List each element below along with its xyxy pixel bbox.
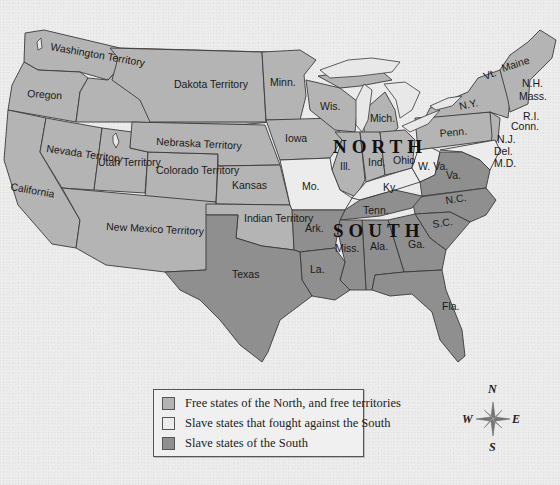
label-wisconsin: Wis. <box>320 100 340 112</box>
legend-label: Slave states that fought against the Sou… <box>185 416 391 431</box>
label-utah: Utah Territory <box>98 156 162 168</box>
compass-west: W <box>462 412 473 427</box>
label-tennessee: Tenn. <box>363 204 389 216</box>
legend-swatch-free <box>162 397 175 410</box>
legend-item-border: Slave states that fought against the Sou… <box>162 416 391 430</box>
label-iowa: Iowa <box>285 132 307 144</box>
label-michigan: Mich. <box>370 112 395 124</box>
label-illinois: Ill. <box>340 160 351 172</box>
label-maryland: M.D. <box>494 157 516 169</box>
label-louisiana: La. <box>310 263 325 275</box>
compass-north: N <box>488 382 497 397</box>
region-florida <box>372 270 465 362</box>
label-new-hampshire: N.H. <box>522 77 543 89</box>
legend-item-south: Slave states of the South <box>162 436 308 450</box>
map-legend: Free states of the North, and free terri… <box>153 389 364 457</box>
label-new-jersey: N.J. <box>497 133 516 145</box>
label-texas: Texas <box>232 268 259 280</box>
label-arkansas: Ark. <box>305 222 324 234</box>
label-kansas: Kansas <box>232 179 267 191</box>
label-dakota: Dakota Territory <box>174 78 249 90</box>
label-missouri: Mo. <box>302 180 320 192</box>
label-indian-territory: Indian Territory <box>244 212 314 224</box>
label-delaware: Del. <box>494 145 513 157</box>
label-kentucky: Ky. <box>383 181 397 193</box>
compass-east: E <box>512 412 520 427</box>
legend-swatch-south <box>162 437 175 450</box>
label-alabama: Ala. <box>370 240 388 252</box>
legend-item-free: Free states of the North, and free terri… <box>162 396 401 410</box>
legend-label: Free states of the North, and free terri… <box>185 396 401 411</box>
label-west-virginia: W. Va. <box>418 160 448 172</box>
label-connecticut: Conn. <box>511 120 539 132</box>
label-oregon: Oregon <box>27 87 63 101</box>
compass-rose: N W E S <box>462 382 522 454</box>
label-georgia: Ga. <box>408 238 425 250</box>
label-massachusetts: Mass. <box>519 90 547 102</box>
legend-label: Slave states of the South <box>185 436 308 451</box>
label-ohio: Ohio <box>393 154 415 166</box>
label-colorado: Colorado Territory <box>156 164 240 176</box>
label-indiana: Ind. <box>368 156 386 168</box>
label-virginia: Va. <box>446 169 461 181</box>
label-pennsylvania: Penn. <box>439 125 467 139</box>
label-minnesota: Minn. <box>270 76 296 88</box>
lake-superior <box>320 58 400 78</box>
legend-swatch-border <box>162 417 175 430</box>
compass-star-icon <box>474 400 512 438</box>
label-mississippi: Miss. <box>335 242 360 254</box>
compass-south: S <box>489 440 496 455</box>
label-florida: Fla. <box>442 300 460 312</box>
